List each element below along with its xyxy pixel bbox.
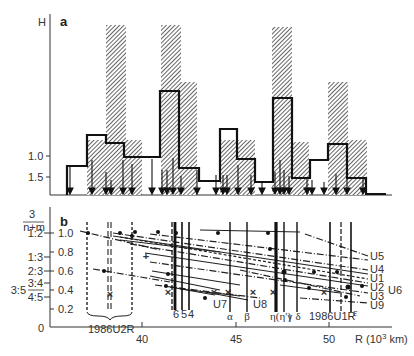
panel-a-tick-1.5: 1.5 — [28, 171, 43, 183]
ring-label-1986U1R: 1986U1R — [309, 310, 356, 322]
moon-label-U9: U9 — [370, 299, 384, 311]
panel-b-tick-0.4: 0.4 — [58, 284, 73, 296]
x-tick-40: 40 — [136, 333, 148, 345]
moon-label-U6: U6 — [388, 284, 402, 296]
ring-1986U2R-region — [87, 222, 132, 320]
panel-b-tick-1.0: 1.0 — [58, 227, 73, 239]
ring-label-gamma: γ — [287, 310, 293, 322]
figure: H a 1.0 1.5 — [0, 0, 414, 356]
ring-label-4: 4 — [188, 308, 194, 320]
ratio-2-3: 2:3 — [28, 265, 43, 277]
svg-text:×: × — [165, 286, 171, 298]
ring-label-epsilon: ε — [353, 306, 358, 318]
hatched-bars — [87, 25, 367, 195]
panel-b: 3 n+m b 1.0 0.8 0.6 0.4 0.2 0 1:2 1:3 2:… — [11, 207, 408, 345]
moon-label-U8: U8 — [253, 298, 267, 310]
x-axis-title: R (103 km) — [355, 332, 408, 345]
panel-a-y-title: H — [38, 16, 46, 28]
svg-text:×: × — [321, 286, 327, 298]
x-tick-45: 45 — [230, 333, 242, 345]
marker-x: × — [107, 288, 113, 300]
ring-label-alpha: α — [227, 310, 233, 322]
svg-text:×: × — [211, 286, 217, 298]
ring-label-6: 6 — [173, 308, 179, 320]
panel-b-tick-0.6: 0.6 — [58, 265, 73, 277]
moon-label-U7: U7 — [213, 298, 227, 310]
x-tick-50: 50 — [323, 333, 335, 345]
panel-b-tick-0.2: 0.2 — [58, 303, 73, 315]
panel-b-y-title-numerator: 3 — [29, 208, 35, 220]
panel-b-tick-0.8: 0.8 — [58, 246, 73, 258]
moon-label-U5: U5 — [370, 250, 384, 262]
panel-b-tick-0: 0 — [38, 322, 44, 334]
ratio-4-5: 4:5 — [28, 291, 43, 303]
panel-a-tick-1.0: 1.0 — [28, 150, 43, 162]
ring-label-5: 5 — [181, 308, 187, 320]
ratio-3-4: 3:4 — [28, 277, 43, 289]
ratio-1-3: 1:3 — [28, 251, 43, 263]
ratio-3-5: 3:5 — [11, 284, 26, 296]
ring-label-1986U2R: 1986U2R — [88, 323, 135, 335]
panel-a-label: a — [60, 14, 68, 29]
ring-label-beta: β — [244, 310, 250, 322]
ratio-1-2: 1:2 — [28, 227, 43, 239]
ring-label-delta: δ — [295, 310, 300, 322]
panel-a: H a 1.0 1.5 — [28, 14, 392, 195]
svg-text:×: × — [250, 286, 256, 298]
svg-text:+: + — [143, 250, 149, 262]
